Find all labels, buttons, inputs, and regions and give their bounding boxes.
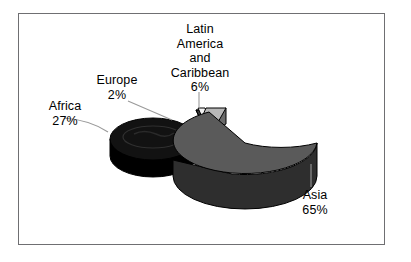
pie-slice-asia-top <box>173 112 317 174</box>
chart-canvas: Latin America and Caribbean 6% Europe 2%… <box>0 0 411 262</box>
latin-line-2: America <box>141 37 259 52</box>
europe-name: Europe <box>72 73 162 88</box>
asia-name: Asia <box>272 188 358 203</box>
pie-label-europe: Europe 2% <box>72 73 162 102</box>
asia-value: 65% <box>272 203 358 218</box>
africa-value: 27% <box>22 114 108 129</box>
africa-name: Africa <box>22 99 108 114</box>
latin-line-3: and <box>141 51 259 66</box>
latin-line-1: Latin <box>141 22 259 37</box>
pie-label-africa: Africa 27% <box>22 99 108 128</box>
pie-label-asia: Asia 65% <box>272 188 358 217</box>
leader-line-europe <box>128 101 172 120</box>
